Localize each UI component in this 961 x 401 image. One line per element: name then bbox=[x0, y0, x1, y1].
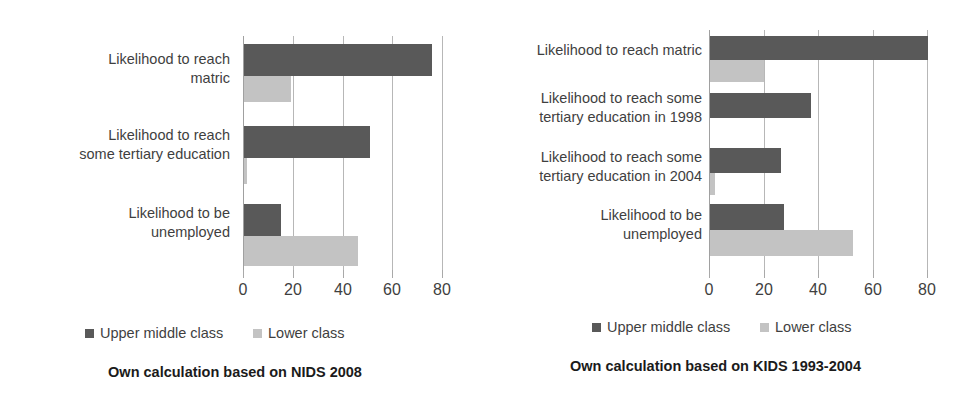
bar-nids-matric-upper-middle-class bbox=[244, 44, 432, 76]
tick-nids-80 bbox=[442, 270, 443, 278]
legend-swatch-icon-upper-middle-class bbox=[85, 329, 94, 338]
tick-nids-0 bbox=[243, 270, 244, 278]
tick-kids-40 bbox=[818, 270, 819, 278]
ticklabel-kids-0: 0 bbox=[689, 281, 729, 299]
legend-item-nids-upper-middle-class[interactable]: Upper middle class bbox=[85, 325, 223, 341]
legend-swatch-icon-lower-class bbox=[253, 329, 262, 338]
bar-nids-unemployed-lower-class bbox=[244, 236, 358, 266]
legend-item-kids-upper-middle-class[interactable]: Upper middle class bbox=[592, 319, 730, 335]
bar-kids-unemployed-upper-middle-class bbox=[710, 204, 784, 230]
tick-nids-40 bbox=[343, 270, 344, 278]
ticklabel-nids-0: 0 bbox=[223, 281, 263, 299]
caption-nids: Own calculation based on NIDS 2008 bbox=[0, 364, 470, 380]
ticklabel-kids-40: 40 bbox=[798, 281, 838, 299]
ticklabel-kids-20: 20 bbox=[744, 281, 784, 299]
bar-nids-tertiary-upper-middle-class bbox=[244, 126, 370, 158]
ticklabel-nids-60: 60 bbox=[372, 281, 412, 299]
tick-nids-20 bbox=[293, 270, 294, 278]
bar-kids-tertiary1998-upper-middle-class bbox=[710, 93, 811, 118]
ticklabel-kids-60: 60 bbox=[853, 281, 893, 299]
ticklabel-nids-80: 80 bbox=[422, 281, 462, 299]
bar-kids-unemployed-lower-class bbox=[710, 230, 853, 256]
tick-kids-60 bbox=[873, 270, 874, 278]
gridline-nids-80 bbox=[442, 36, 443, 270]
legend-label-nids-upper-middle-class: Upper middle class bbox=[100, 325, 223, 341]
plot-area-kids bbox=[470, 0, 961, 401]
ticklabel-kids-80: 80 bbox=[907, 281, 947, 299]
tick-kids-0 bbox=[709, 270, 710, 278]
legend-label-kids-upper-middle-class: Upper middle class bbox=[607, 319, 730, 335]
bar-kids-matric-lower-class bbox=[710, 60, 764, 82]
bar-kids-matric-upper-middle-class bbox=[710, 36, 928, 60]
legend-label-nids-lower-class: Lower class bbox=[268, 325, 345, 341]
plot-area-nids bbox=[0, 0, 470, 401]
bar-nids-unemployed-upper-middle-class bbox=[244, 204, 281, 236]
ticklabel-nids-20: 20 bbox=[273, 281, 313, 299]
bar-kids-tertiary2004-lower-class bbox=[710, 173, 715, 195]
tick-nids-60 bbox=[392, 270, 393, 278]
bar-nids-matric-lower-class bbox=[244, 76, 291, 102]
caption-kids: Own calculation based on KIDS 1993-2004 bbox=[470, 358, 961, 374]
ticklabel-nids-40: 40 bbox=[323, 281, 363, 299]
bar-kids-tertiary2004-upper-middle-class bbox=[710, 148, 781, 173]
tick-kids-80 bbox=[927, 270, 928, 278]
chart-panel-nids: Likelihood to reach matric Likelihood to… bbox=[0, 0, 470, 401]
bar-nids-tertiary-lower-class bbox=[244, 158, 247, 184]
tick-kids-20 bbox=[764, 270, 765, 278]
legend-label-kids-lower-class: Lower class bbox=[775, 319, 852, 335]
gridline-kids-80 bbox=[927, 30, 928, 270]
gridline-kids-60 bbox=[873, 30, 874, 270]
chart-panel-kids: Likelihood to reach matric Likelihood to… bbox=[470, 0, 961, 401]
legend-swatch-icon-lower-class bbox=[760, 323, 769, 332]
legend-item-kids-lower-class[interactable]: Lower class bbox=[760, 319, 852, 335]
legend-item-nids-lower-class[interactable]: Lower class bbox=[253, 325, 345, 341]
legend-swatch-icon-upper-middle-class bbox=[592, 323, 601, 332]
